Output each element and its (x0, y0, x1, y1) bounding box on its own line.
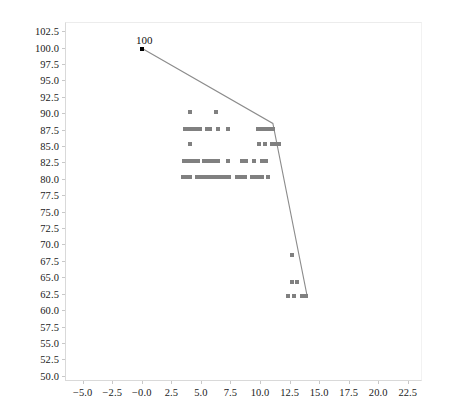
scatter-point (292, 294, 296, 298)
x-tick-label: 17.5 (339, 387, 358, 398)
scatter-point (216, 127, 220, 131)
x-tick-label: −2.5 (103, 387, 122, 398)
scatter-point (244, 159, 248, 163)
scatter-point (214, 110, 218, 114)
plot-area: 100 (65, 22, 422, 381)
scatter-point (188, 142, 192, 146)
x-tick-label: 22.5 (398, 387, 417, 398)
scatter-point (243, 175, 247, 179)
trend-line (142, 49, 307, 296)
x-tick-label: 7.5 (224, 387, 237, 398)
scatter-point (277, 142, 281, 146)
plot-inner: 100 (66, 23, 421, 380)
scatter-point (226, 127, 230, 131)
x-tick-label: 2.5 (165, 387, 178, 398)
scatter-point (257, 142, 261, 146)
scatter-point (271, 127, 275, 131)
scatter-point (286, 294, 290, 298)
scatter-point (304, 294, 308, 298)
scatter-point (264, 159, 268, 163)
scatter-point (256, 127, 260, 131)
scatter-point (196, 159, 200, 163)
x-tick-label: 5.0 (194, 387, 207, 398)
scatter-point (216, 159, 220, 163)
trend-line-svg (66, 23, 423, 382)
x-tick-label: 15.0 (310, 387, 329, 398)
x-tick-label: 12.5 (280, 387, 299, 398)
scatter-point (198, 127, 202, 131)
scatter-point (188, 175, 192, 179)
x-tick-label: 20.0 (369, 387, 388, 398)
scatter-point (295, 280, 299, 284)
scatter-point (252, 159, 256, 163)
scatter-point (260, 175, 264, 179)
scatter-point (290, 280, 294, 284)
scatter-point (226, 159, 230, 163)
scatter-point (266, 175, 270, 179)
scatter-point (188, 110, 192, 114)
scatter-point (208, 127, 212, 131)
scatter-point (290, 253, 294, 257)
annotation-label: 100 (136, 34, 153, 46)
annotation-marker (140, 47, 144, 51)
scatter-point (227, 175, 231, 179)
scatter-point (263, 142, 267, 146)
x-tick-label: −0.0 (132, 387, 151, 398)
x-tick-label: −5.0 (73, 387, 92, 398)
chart-figure: 50.052.555.057.560.062.565.067.570.072.5… (0, 0, 450, 418)
x-tick-label: 10.0 (251, 387, 270, 398)
